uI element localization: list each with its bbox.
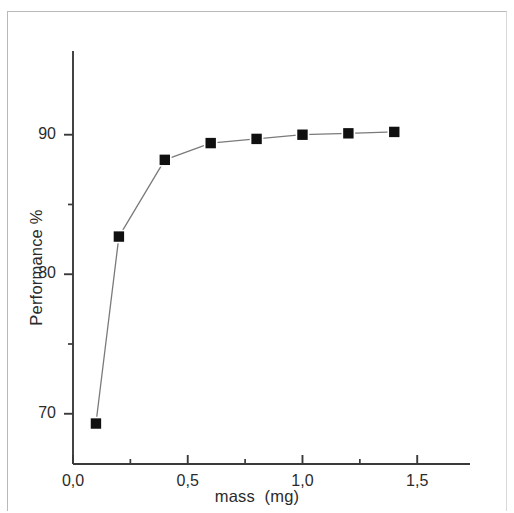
marker-square — [297, 130, 307, 140]
data-point-marker — [158, 153, 172, 167]
x-axis-tick-label: 0,0 — [50, 472, 96, 490]
data-point-marker — [112, 230, 126, 244]
data-point-marker — [387, 125, 401, 139]
data-point-marker — [250, 132, 264, 146]
line-chart-figure: Performance % mass (mg) 0,00,51,01,57080… — [0, 0, 514, 513]
x-axis-tick-label: 1,5 — [394, 472, 440, 490]
marker-square — [91, 418, 101, 428]
y-axis-tick-label: 80 — [16, 264, 56, 282]
y-axis-tick-label: 70 — [16, 404, 56, 422]
x-axis-tick-label: 0,5 — [165, 472, 211, 490]
data-point-marker — [342, 127, 356, 141]
marker-square — [389, 127, 399, 137]
marker-square — [114, 231, 124, 241]
data-point-marker — [89, 417, 103, 431]
x-axis-tick-label: 1,0 — [279, 472, 325, 490]
chart-page: Performance % mass (mg) 0,00,51,01,57080… — [0, 0, 514, 513]
data-point-marker — [296, 128, 310, 142]
y-axis-tick-label: 90 — [16, 125, 56, 143]
series-line — [96, 132, 394, 424]
marker-square — [251, 134, 261, 144]
marker-square — [343, 128, 353, 138]
marker-square — [160, 155, 170, 165]
data-point-marker — [204, 136, 218, 150]
marker-square — [205, 138, 215, 148]
plot-canvas — [0, 0, 514, 513]
